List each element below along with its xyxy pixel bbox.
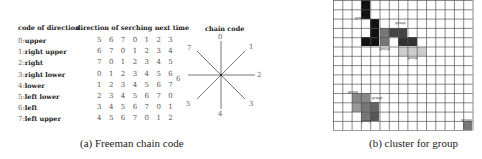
direction-4-label: 4 bbox=[218, 110, 222, 118]
direction-6-label: 6 bbox=[176, 75, 180, 83]
direction-name: right bbox=[25, 59, 43, 67]
cluster-grid: groupgroupgroupgroupgroupgroupgroupgroup bbox=[333, 0, 473, 130]
group-label: group bbox=[380, 47, 390, 51]
direction-code: 0: bbox=[18, 37, 25, 45]
direction-row-label: 5:left lower bbox=[18, 93, 59, 101]
group-label: group bbox=[461, 118, 471, 122]
header-direction-of-searching: direction of serching next time bbox=[76, 24, 189, 32]
group-label: group bbox=[372, 96, 382, 100]
direction-code: 4: bbox=[18, 82, 25, 90]
search-sequence: 2 3 4 5 6 7 0 bbox=[97, 92, 175, 100]
direction-row-label: 6:left bbox=[18, 104, 37, 112]
grid-lines bbox=[333, 0, 474, 131]
direction-code: 7: bbox=[18, 115, 25, 123]
direction-name: right lower bbox=[25, 71, 65, 79]
header-code-of-direction: code of direction bbox=[18, 24, 80, 32]
direction-row-label: 1:right upper bbox=[18, 48, 67, 56]
direction-1-label: 1 bbox=[249, 43, 253, 51]
direction-name: upper bbox=[25, 37, 46, 45]
search-sequence: 0 1 2 3 4 5 6 bbox=[97, 70, 175, 78]
direction-row-label: 7:left upper bbox=[18, 115, 61, 123]
group-label: group bbox=[348, 90, 358, 94]
direction-code: 1: bbox=[18, 48, 25, 56]
direction-5-label: 5 bbox=[186, 100, 190, 108]
direction-name: lower bbox=[25, 82, 45, 90]
search-sequence: 3 4 5 6 7 0 1 bbox=[97, 103, 175, 111]
search-sequence: 7 0 1 2 3 4 5 bbox=[97, 58, 175, 66]
direction-name: left bbox=[25, 104, 37, 112]
search-sequence: 5 6 7 0 1 2 3 bbox=[97, 36, 175, 44]
direction-0-label: 0 bbox=[218, 33, 222, 41]
direction-code: 5: bbox=[18, 93, 25, 101]
direction-name: left upper bbox=[25, 115, 61, 123]
direction-code: 6: bbox=[18, 104, 25, 112]
direction-row-label: 4:lower bbox=[18, 82, 45, 90]
search-sequence: 4 5 6 7 0 1 2 bbox=[97, 114, 175, 122]
direction-7-label: 7 bbox=[187, 44, 191, 52]
search-sequence: 1 2 3 4 5 6 7 bbox=[97, 81, 175, 89]
group-label: group bbox=[407, 56, 417, 60]
direction-row-label: 2:right bbox=[18, 59, 43, 67]
search-sequence: 6 7 0 1 2 3 4 bbox=[97, 47, 175, 55]
direction-row-label: 3:right lower bbox=[18, 71, 65, 79]
direction-code: 3: bbox=[18, 71, 25, 79]
group-label: group bbox=[395, 21, 405, 25]
group-label: group bbox=[355, 16, 365, 20]
group-label: group bbox=[361, 119, 371, 123]
caption-a: (a) Freeman chain code bbox=[80, 137, 184, 149]
direction-3-label: 3 bbox=[249, 100, 253, 108]
direction-name: left lower bbox=[25, 93, 60, 101]
direction-code: 2: bbox=[18, 59, 25, 67]
chain-code-diagram bbox=[186, 30, 286, 125]
direction-row-label: 0:upper bbox=[18, 37, 46, 45]
caption-b: (b) cluster for group bbox=[369, 137, 458, 149]
direction-2-label: 2 bbox=[257, 71, 261, 79]
direction-name: right upper bbox=[25, 48, 67, 56]
